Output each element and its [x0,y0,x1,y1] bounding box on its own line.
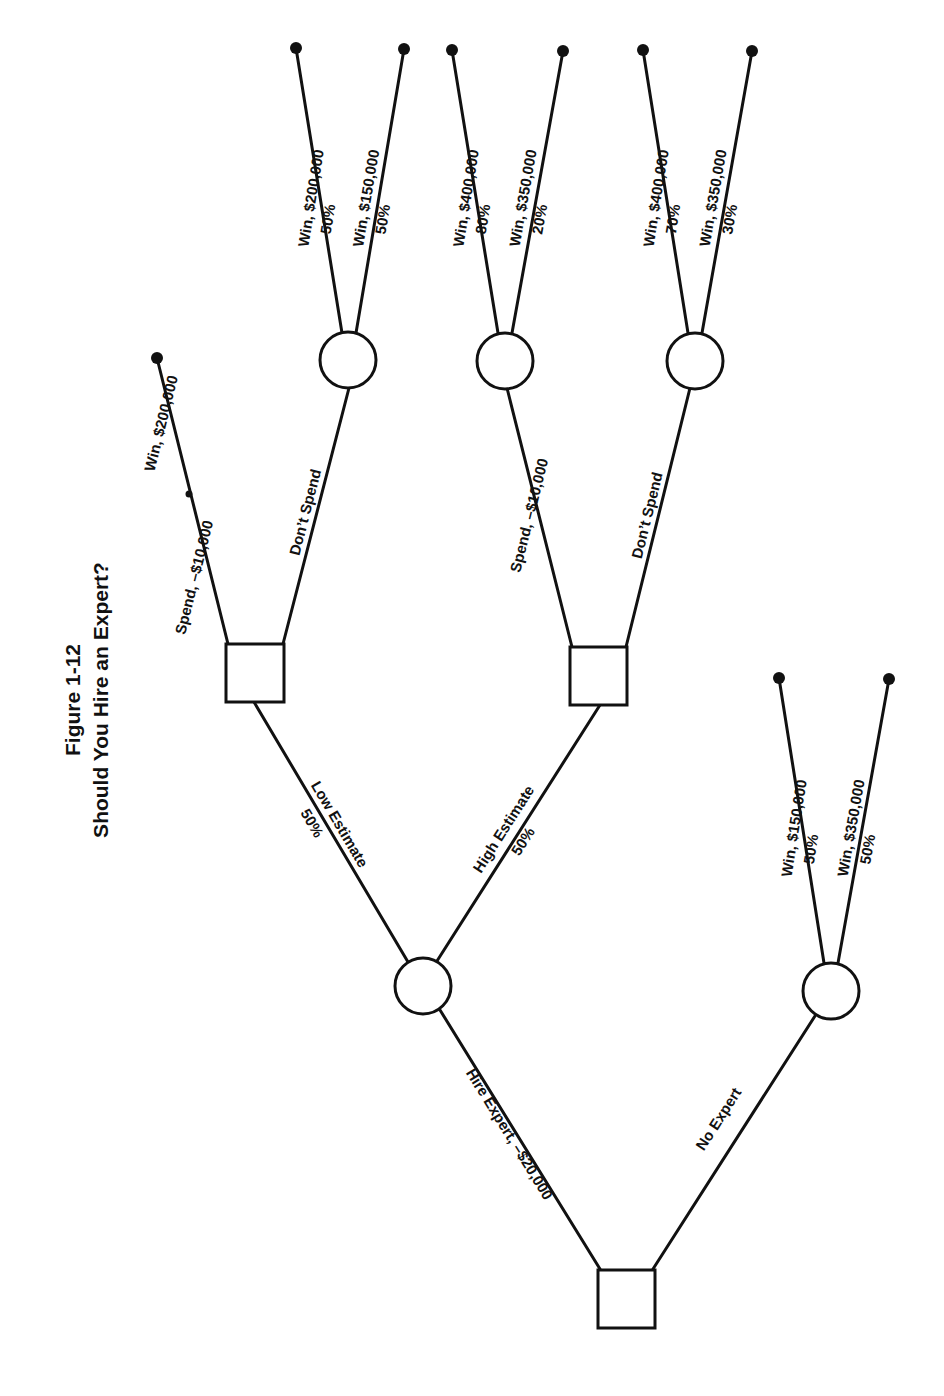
high-dont-spend-chance-node [667,333,723,389]
edge-high-spend [507,388,572,647]
edge-no-expert [653,1016,815,1269]
label-high-ds-win2: Win, $350,000 30% [696,148,750,251]
svg-text:Spend, –$10,000: Spend, –$10,000 [171,519,216,636]
svg-text:No Expert: No Expert [692,1084,744,1153]
svg-text:Win, $200,000: Win, $200,000 [141,373,181,472]
edge-low-estimate [254,702,408,962]
edge-low-dont-spend [283,388,349,644]
root-decision-node [598,1270,655,1328]
edge-high-dont-spend [626,388,690,647]
label-low-spend-win: Win, $200,000 [141,373,181,472]
decision-tree-diagram: Figure 1-12 Should You Hire an Expert? [0,0,944,1396]
figure-caption: Should You Hire an Expert? [89,562,112,838]
svg-text:50%: 50% [317,203,339,235]
terminal-dot [773,672,785,684]
terminal-dot [557,45,569,57]
label-high-spend-win2: Win, $350,000 20% [506,148,560,251]
terminal-dot [290,42,302,54]
label-no-expert: No Expert [692,1084,744,1153]
terminal-dot [446,44,458,56]
svg-text:80%: 80% [472,203,494,235]
high-spend-chance-node [477,333,533,389]
terminal-dot [186,491,193,498]
svg-text:20%: 20% [528,203,550,236]
terminal-dot [398,43,410,55]
expert-chance-node [395,958,451,1014]
label-low-spend: Spend, –$10,000 [171,519,216,636]
low-dont-spend-chance-node [320,332,376,388]
figure-title: Figure 1-12 Should You Hire an Expert? [61,562,112,838]
terminal-dot [883,673,895,685]
terminal-dot [637,44,649,56]
svg-text:30%: 30% [718,203,740,236]
figure-number: Figure 1-12 [61,644,84,756]
terminal-dot [746,45,758,57]
svg-text:50%: 50% [371,203,393,235]
low-estimate-decision-node [226,644,284,702]
label-low-ds-win2: Win, $150,000 50% [349,148,402,251]
high-estimate-decision-node [570,647,627,705]
label-hire-expert: Hire Expert, –$20,000 [463,1065,557,1202]
terminal-dot [151,352,163,364]
svg-text:70%: 70% [662,203,683,235]
no-expert-chance-node [803,963,859,1019]
label-high-estimate: High Estimate 50% [469,782,556,888]
svg-text:Hire Expert, –$20,000: Hire Expert, –$20,000 [463,1065,557,1202]
svg-text:50%: 50% [800,833,821,865]
